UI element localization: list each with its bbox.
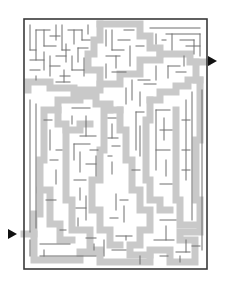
solution-path-segment <box>146 100 170 210</box>
solution-path-segment <box>92 110 120 245</box>
maze-canvas <box>0 0 225 287</box>
solution-path-segment <box>88 24 100 84</box>
end-arrow-icon <box>208 56 217 66</box>
start-arrow-icon <box>8 229 17 239</box>
solution-path-segment <box>24 62 207 262</box>
